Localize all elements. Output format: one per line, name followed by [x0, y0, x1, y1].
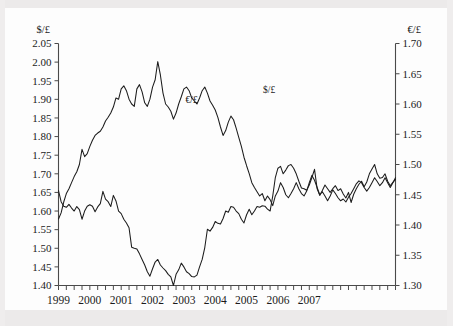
x-axis-tick-label: 1999 — [47, 294, 70, 306]
chart-page: 1.401.451.501.551.601.651.701.751.801.85… — [0, 0, 453, 326]
left-axis-tick-label: 1.90 — [32, 93, 52, 105]
right-axis-unit-label: €/£ — [408, 24, 421, 35]
right-axis-tick-label: 1.55 — [403, 128, 423, 140]
left-axis-tick-label: 1.60 — [32, 205, 52, 217]
x-axis-tick-label: 2007 — [298, 294, 321, 306]
x-axis-tick-label: 2002 — [141, 294, 164, 306]
right-axis-tick-label: 1.35 — [403, 249, 423, 261]
right-axis-tick-label: 1.30 — [403, 279, 423, 291]
right-axis-tick-label: 1.60 — [403, 98, 423, 110]
left-axis-tick-label: 1.45 — [32, 261, 52, 273]
exchange-rate-line-chart: 1.401.451.501.551.601.651.701.751.801.85… — [0, 0, 453, 326]
x-axis: 199920002001200220032004200520062007 — [47, 286, 396, 306]
data-series-group — [59, 62, 396, 286]
left-axis-tick-label: 2.05 — [32, 37, 52, 49]
series-line-usd-gbp — [59, 165, 396, 286]
left-axis-tick-label: 1.95 — [32, 75, 52, 87]
left-axis-tick-label: 1.40 — [32, 279, 52, 291]
right-axis: 1.301.351.401.451.501.551.601.651.70€/£ — [396, 24, 423, 292]
x-axis-tick-label: 2004 — [204, 294, 227, 306]
left-axis-tick-label: 1.65 — [32, 186, 52, 198]
left-axis-tick-label: 1.80 — [32, 130, 52, 142]
x-axis-tick-label: 2006 — [266, 294, 289, 306]
left-axis-tick-label: 1.85 — [32, 112, 52, 124]
right-axis-tick-label: 1.65 — [403, 68, 423, 80]
left-axis-tick-label: 1.55 — [32, 223, 52, 235]
right-axis-tick-label: 1.70 — [403, 37, 423, 49]
series-annotations: €/£$/£ — [186, 85, 276, 105]
right-axis-tick-label: 1.40 — [403, 219, 423, 231]
left-axis: 1.401.451.501.551.601.651.701.751.801.85… — [32, 24, 58, 292]
left-axis-tick-label: 1.50 — [32, 242, 52, 254]
series-line-eur-gbp — [59, 62, 396, 219]
right-axis-tick-label: 1.50 — [403, 158, 423, 170]
right-axis-tick-label: 1.45 — [403, 189, 423, 201]
x-axis-tick-label: 2005 — [235, 294, 258, 306]
series-annotation-eur-gbp: €/£ — [186, 95, 198, 105]
left-axis-tick-label: 1.75 — [32, 149, 52, 161]
left-axis-unit-label: $/£ — [37, 24, 50, 35]
left-axis-tick-label: 1.70 — [32, 168, 52, 180]
left-axis-tick-label: 2.00 — [32, 56, 52, 68]
x-axis-tick-label: 2000 — [78, 294, 101, 306]
x-axis-tick-label: 2003 — [172, 294, 195, 306]
x-axis-tick-label: 2001 — [110, 294, 133, 306]
series-annotation-usd-gbp: $/£ — [263, 85, 275, 95]
